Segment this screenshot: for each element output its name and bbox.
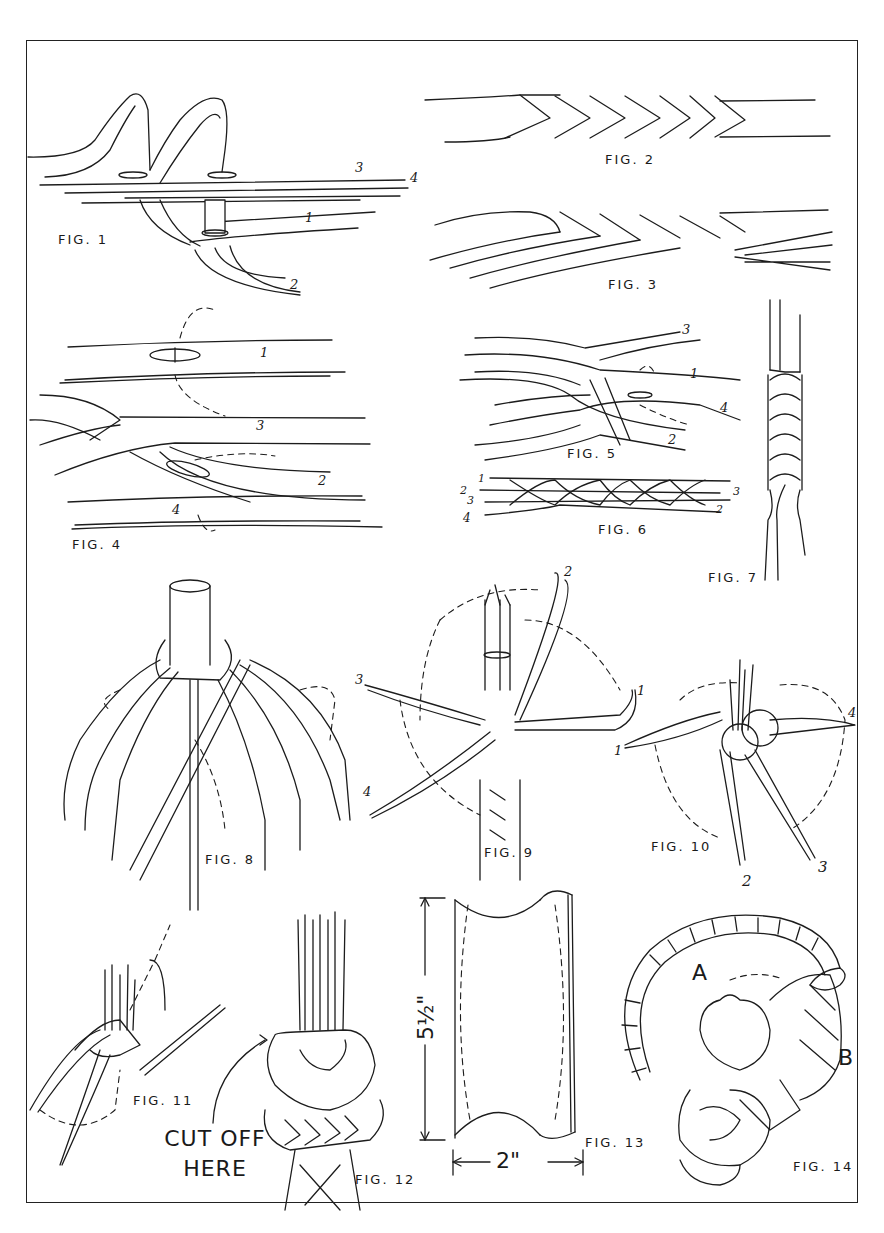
fig4-caption: FIG. 4 [72,537,122,552]
fig2-caption: FIG. 2 [605,152,655,167]
fig6-strand-3-right: 3 [733,485,740,498]
fig9-strand-3: 3 [355,672,363,687]
fig6-strand-1: 1 [478,472,485,485]
fig4-strand-2: 2 [318,473,326,488]
fig5-drawing [460,332,740,460]
fig9-strand-2: 2 [564,564,572,579]
fig8-caption: FIG. 8 [205,852,255,867]
fig9-strand-1: 1 [637,683,645,698]
fig12-caption: FIG. 12 [355,1172,415,1187]
cut-off-text: CUT OFF [140,1124,290,1154]
fig9-caption: FIG. 9 [484,845,534,860]
fig13-caption: FIG. 13 [585,1135,645,1150]
fig10-caption: FIG. 10 [651,839,711,854]
fig1-strand-1: 1 [305,210,313,225]
fig9-strand-4: 4 [363,784,371,799]
fig5-strand-3: 3 [682,322,690,337]
fig7-caption: FIG. 7 [708,570,758,585]
fig13-drawing [420,891,583,1175]
fig3-caption: FIG. 3 [608,277,658,292]
fig5-caption: FIG. 5 [567,446,617,461]
fig5-strand-4: 4 [720,400,728,415]
fig14-point-b: B [838,1045,853,1070]
fig6-strand-4: 4 [463,511,471,525]
fig4-strand-4: 4 [172,502,180,517]
illustration-plate: FIG. 1 FIG. 2 FIG. 3 FIG. 4 FIG. 5 FIG. … [0,0,884,1233]
fig11-caption: FIG. 11 [133,1093,193,1108]
fig12-cut-annotation: CUT OFF HERE [140,1124,290,1184]
fig10-strand-1: 1 [614,743,622,758]
fig4-strand-1: 1 [260,345,268,360]
fig6-drawing [480,478,730,515]
fig5-strand-1: 1 [690,366,698,381]
fig4-strand-3: 3 [256,418,264,433]
fig10-strand-2: 2 [742,872,752,890]
fig14-caption: FIG. 14 [793,1159,853,1174]
fig13-width-dimension: 2" [496,1148,520,1173]
fig1-strand-2: 2 [290,277,298,292]
fig4-drawing [30,308,382,531]
fig5-strand-2: 2 [668,432,676,447]
fig6-strand-2-right: 2 [716,503,723,516]
fig9-drawing [365,573,636,880]
fig6-strand-3: 3 [467,494,474,507]
fig1-caption: FIG. 1 [58,232,108,247]
fig10-drawing [625,660,855,865]
fig7-drawing [765,300,805,580]
fig14-point-a: A [692,960,707,985]
here-text: HERE [140,1154,290,1184]
fig1-drawing [28,94,408,295]
fig1-strand-3: 3 [355,160,363,175]
fig10-strand-3: 3 [818,858,828,876]
line-drawings [0,0,884,1233]
fig2-drawing [425,95,830,142]
fig14-drawing [622,915,845,1185]
fig10-strand-4: 4 [848,705,856,720]
fig6-caption: FIG. 6 [598,522,648,537]
fig1-strand-4: 4 [410,170,418,185]
fig6-strand-2: 2 [460,484,467,497]
fig13-height-dimension: 5½" [413,995,438,1040]
